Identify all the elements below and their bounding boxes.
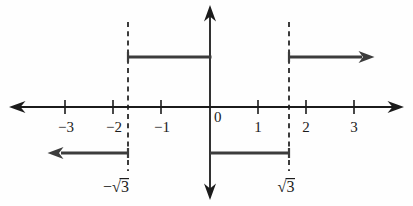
y-axis <box>204 5 216 200</box>
x-axis <box>9 101 404 113</box>
x-axis-tick-labels: −3 −2 −1 1 2 3 <box>58 119 358 135</box>
tick-label-neg2: −2 <box>106 119 122 135</box>
sign-chart-canvas: −3 −2 −1 1 2 3 0 <box>0 0 413 206</box>
boundary-label-pos-sqrt3: √3 <box>278 178 295 195</box>
tick-label-neg1: −1 <box>154 119 170 135</box>
segment-above-left <box>128 52 212 62</box>
tick-label-pos2: 2 <box>302 119 310 135</box>
boundary-label-neg-sqrt3: −√3 <box>103 178 129 195</box>
origin-label: 0 <box>214 109 222 125</box>
tick-label-pos1: 1 <box>254 119 262 135</box>
tick-label-neg3: −3 <box>58 119 74 135</box>
ray-above-right <box>289 51 375 63</box>
segment-below-right <box>210 148 289 158</box>
tick-label-pos3: 3 <box>350 119 358 135</box>
sign-chart-figure: −3 −2 −1 1 2 3 0 <box>0 0 413 206</box>
ray-below-left <box>48 147 129 159</box>
